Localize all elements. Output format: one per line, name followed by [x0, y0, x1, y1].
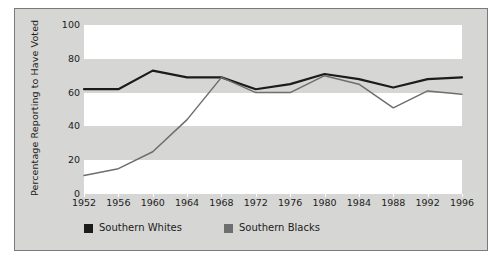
chart-legend: Southern WhitesSouthern Blacks	[84, 221, 362, 235]
y-axis-tick-labels: 100806040200	[50, 25, 80, 194]
y-tick-label: 80	[54, 54, 80, 64]
chart-figure: Percentage Reporting to Have Voted 10080…	[0, 0, 502, 259]
y-tick-label: 40	[54, 121, 80, 131]
series-line	[84, 71, 462, 90]
y-tick-label: 20	[54, 155, 80, 165]
legend-item: Southern Whites	[84, 222, 182, 234]
x-axis-tick-labels: 1952195619601964196819721976198019841988…	[84, 197, 462, 211]
legend-swatch-icon	[224, 224, 233, 233]
plot-area	[84, 25, 462, 194]
data-lines	[84, 25, 462, 194]
legend-swatch-icon	[84, 224, 93, 233]
series-line	[84, 76, 462, 176]
legend-label: Southern Whites	[99, 222, 182, 234]
x-tick-label: 1996	[442, 197, 482, 209]
y-axis-title: Percentage Reporting to Have Voted	[28, 24, 42, 196]
y-tick-label: 60	[54, 88, 80, 98]
legend-label: Southern Blacks	[239, 222, 320, 234]
y-tick-label: 100	[54, 20, 80, 30]
legend-item: Southern Blacks	[224, 222, 320, 234]
